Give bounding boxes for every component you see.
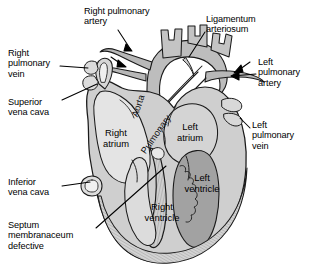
chamber-label-right-ventricle: Right ventricle	[136, 202, 188, 223]
callout-superior-vena-cava: Superior vena cava	[8, 97, 49, 118]
superior-vena-cava-lumen	[100, 63, 108, 82]
callout-left-pulmonary-artery: Left pulmonary artery	[258, 57, 300, 88]
callout-left-pulmonary-vein: Left pulmonary vein	[252, 120, 294, 151]
inferior-vena-cava-lumen	[85, 180, 98, 192]
chamber-label-left-ventricle: Left ventricle	[176, 173, 228, 194]
leader-left-pulmonary-artery-2-arrow	[234, 65, 243, 73]
leader-right-pulmonary-artery-2-arrow	[117, 60, 126, 67]
septum-membranaceum-defect	[151, 148, 164, 160]
chamber-label-left-atrium: Left atrium	[170, 122, 210, 143]
callout-right-pulmonary-artery: Right pulmonary artery	[84, 6, 149, 27]
chamber-label-right-atrium: Right atrium	[92, 128, 140, 149]
ligamentum-arteriosum-band	[183, 58, 194, 76]
callout-inferior-vena-cava: Inferior vena cava	[8, 177, 49, 198]
left-pulmonary-vein-upper	[222, 98, 242, 112]
heart-anatomy-figure: Right pulmonary artery Ligamentum arteri…	[0, 0, 315, 278]
callout-septum-membranaceum-defective: Septum membranaceum defective	[8, 220, 73, 251]
arch-branch-1	[161, 29, 182, 58]
callout-right-pulmonary-vein: Right pulmonary vein	[8, 48, 50, 79]
callout-ligamentum-arteriosum: Ligamentum arteriosum	[206, 14, 256, 35]
left-ventricle-cavity	[173, 151, 219, 248]
right-pulmonary-vein-lower	[83, 76, 98, 90]
